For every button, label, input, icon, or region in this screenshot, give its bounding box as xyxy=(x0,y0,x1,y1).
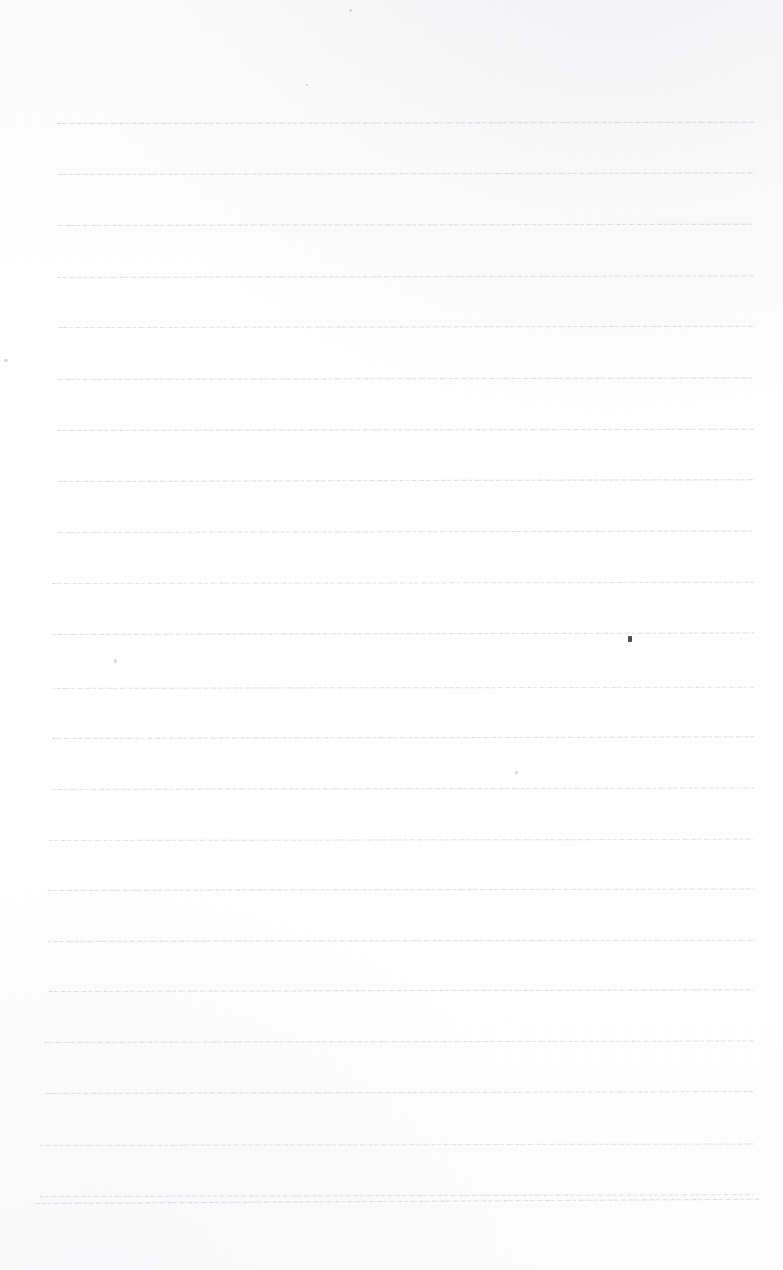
ruled-line xyxy=(57,377,754,380)
ruled-line xyxy=(48,940,754,942)
scanned-page xyxy=(0,0,783,1270)
ruled-line xyxy=(57,531,754,533)
ruled-line xyxy=(57,224,754,226)
ruled-line xyxy=(44,1041,754,1043)
ruled-line xyxy=(57,173,754,175)
ruled-line xyxy=(57,429,754,431)
ruled-line xyxy=(35,1199,760,1204)
ruled-line xyxy=(57,275,754,278)
ruled-line xyxy=(52,582,754,584)
ruled-line xyxy=(48,989,754,992)
ruled-line xyxy=(52,788,754,790)
ruled-line xyxy=(57,326,754,328)
ruled-line xyxy=(52,632,754,635)
ruled-line xyxy=(40,1143,754,1146)
ruled-line xyxy=(57,122,754,124)
ruled-lines-layer xyxy=(0,0,783,1270)
ruled-line xyxy=(52,687,754,689)
ruled-line xyxy=(40,1194,754,1197)
ruled-line xyxy=(48,888,754,891)
ruled-line xyxy=(48,839,754,841)
ruled-line xyxy=(52,736,754,739)
ruled-line xyxy=(44,1091,754,1094)
ruled-line xyxy=(57,479,754,482)
